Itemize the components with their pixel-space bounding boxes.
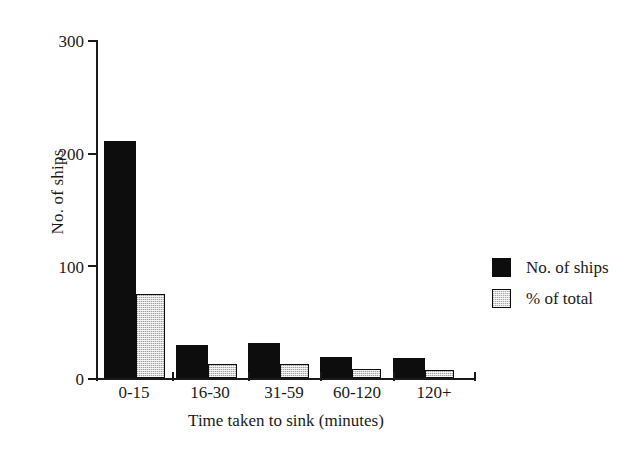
legend-item-no-of-ships: No. of ships xyxy=(492,252,609,283)
x-axis-title: Time taken to sink (minutes) xyxy=(96,411,476,431)
bar-pct-0-15 xyxy=(136,294,165,378)
bar-ships-31-59 xyxy=(248,343,280,378)
y-axis-title: No. of ships xyxy=(48,112,68,272)
x-tick-mark-4 xyxy=(393,372,395,381)
bar-chart-figure: No. of ships 300 200 100 0 0-15 16-30 31… xyxy=(0,0,633,456)
bar-pct-31-59 xyxy=(280,364,309,378)
bar-ships-60-120 xyxy=(320,357,352,378)
legend-swatch-black-square-icon xyxy=(492,258,511,277)
y-tick-label-100: 100 xyxy=(32,259,84,276)
legend-label-no-of-ships: No. of ships xyxy=(526,258,609,278)
y-tick-label-0: 0 xyxy=(32,371,84,388)
x-tick-mark-5 xyxy=(474,372,476,381)
x-tick-label-120-plus: 120+ xyxy=(389,384,479,403)
plot-area xyxy=(96,40,475,378)
x-tick-mark-2 xyxy=(248,372,250,381)
x-tick-mark-0 xyxy=(96,372,98,381)
x-tick-mark-3 xyxy=(320,372,322,381)
legend-swatch-gray-square-icon xyxy=(492,289,511,308)
bar-ships-120-plus xyxy=(393,358,425,378)
chart-legend: No. of ships % of total xyxy=(492,252,609,314)
bar-pct-16-30 xyxy=(208,364,237,378)
legend-item-percent-of-total: % of total xyxy=(492,283,609,314)
legend-label-percent-of-total: % of total xyxy=(526,289,593,309)
x-tick-mark-1 xyxy=(172,372,174,381)
y-tick-label-300: 300 xyxy=(32,33,84,50)
y-tick-label-200: 200 xyxy=(32,146,84,163)
bar-pct-60-120 xyxy=(352,369,381,378)
bar-ships-0-15 xyxy=(104,141,136,378)
x-axis-line xyxy=(96,378,476,380)
bar-pct-120-plus xyxy=(425,370,454,378)
bar-ships-16-30 xyxy=(176,345,208,378)
